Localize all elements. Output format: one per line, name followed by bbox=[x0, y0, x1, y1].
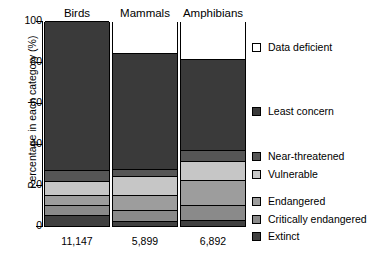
bar-segment[interactable] bbox=[113, 176, 177, 195]
bar-segment[interactable] bbox=[45, 170, 109, 181]
legend-swatch-icon bbox=[252, 232, 261, 241]
bar-segment[interactable] bbox=[181, 59, 245, 149]
legend-swatch-icon bbox=[252, 43, 261, 52]
legend-item[interactable]: Extinct bbox=[252, 231, 300, 242]
plot-area: Birds11,147Mammals5,899Amphibians6,892 bbox=[44, 21, 234, 227]
y-axis-tick-label: 100 bbox=[12, 15, 42, 26]
legend-swatch-icon bbox=[252, 170, 261, 179]
legend-item[interactable]: Data deficient bbox=[252, 42, 332, 53]
bar-segment[interactable] bbox=[113, 169, 177, 176]
legend-item[interactable]: Near-threatened bbox=[252, 151, 344, 162]
legend-label: Vulnerable bbox=[268, 169, 318, 180]
chart-root: Percentage in each category (%) 10080604… bbox=[0, 0, 390, 257]
y-axis-tick-label: 40 bbox=[12, 138, 42, 149]
bar-title: Amphibians bbox=[180, 7, 246, 22]
bar-column[interactable]: Amphibians6,892 bbox=[180, 22, 246, 227]
bar-segment[interactable] bbox=[181, 150, 245, 161]
bar-segment[interactable] bbox=[113, 221, 177, 226]
legend-swatch-icon bbox=[252, 197, 261, 206]
bar-frame bbox=[112, 22, 178, 227]
y-axis-tick-label: 60 bbox=[12, 97, 42, 108]
bar-segment[interactable] bbox=[181, 161, 245, 180]
bar-column[interactable]: Birds11,147 bbox=[44, 22, 110, 227]
y-axis-tick-label: 80 bbox=[12, 56, 42, 67]
bar-segment[interactable] bbox=[181, 21, 245, 59]
bar-frame bbox=[44, 22, 110, 227]
legend-swatch-icon bbox=[252, 152, 261, 161]
legend-item[interactable]: Vulnerable bbox=[252, 169, 318, 180]
bar-column[interactable]: Mammals5,899 bbox=[112, 22, 178, 227]
legend-label: Near-threatened bbox=[268, 151, 344, 162]
y-axis: 100806040200 bbox=[0, 0, 42, 257]
y-axis-tick-label: 20 bbox=[12, 179, 42, 190]
chart-legend: Data deficientLeast concernNear-threaten… bbox=[252, 0, 390, 257]
legend-swatch-icon bbox=[252, 107, 261, 116]
bar-frame bbox=[180, 22, 246, 227]
legend-item[interactable]: Endangered bbox=[252, 196, 325, 207]
bar-title: Birds bbox=[44, 7, 110, 22]
legend-item[interactable]: Critically endangered bbox=[252, 214, 367, 225]
legend-label: Data deficient bbox=[268, 42, 332, 53]
bar-segment[interactable] bbox=[113, 21, 177, 53]
bar-segment[interactable] bbox=[45, 195, 109, 205]
legend-swatch-icon bbox=[252, 215, 261, 224]
bar-segment[interactable] bbox=[45, 215, 109, 226]
bar-segment[interactable] bbox=[113, 195, 177, 210]
bar-segment[interactable] bbox=[181, 220, 245, 226]
legend-item[interactable]: Least concern bbox=[252, 106, 334, 117]
legend-label: Extinct bbox=[268, 231, 300, 242]
bar-segment[interactable] bbox=[181, 180, 245, 205]
bar-segment[interactable] bbox=[181, 205, 245, 220]
legend-label: Critically endangered bbox=[268, 214, 367, 225]
legend-label: Least concern bbox=[268, 106, 334, 117]
bar-sample-size: 6,892 bbox=[172, 227, 254, 247]
bar-segment[interactable] bbox=[45, 205, 109, 215]
legend-label: Endangered bbox=[268, 196, 325, 207]
bar-segment[interactable] bbox=[113, 53, 177, 169]
bar-segment[interactable] bbox=[113, 210, 177, 221]
bar-title: Mammals bbox=[112, 7, 178, 22]
bar-segment[interactable] bbox=[45, 181, 109, 195]
bar-segment[interactable] bbox=[45, 21, 109, 170]
